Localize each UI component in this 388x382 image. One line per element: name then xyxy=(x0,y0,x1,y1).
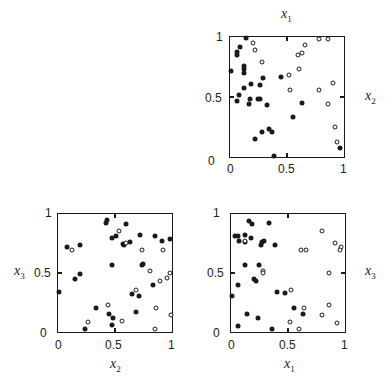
filled-circle-marker xyxy=(134,310,139,315)
y-tick-label-0.5: 0.5 xyxy=(207,267,224,279)
open-circle-marker xyxy=(260,59,265,64)
filled-circle-marker xyxy=(234,98,239,103)
x-tick-label-1: 1 xyxy=(168,339,175,351)
open-circle-marker xyxy=(153,326,158,331)
open-circle-marker xyxy=(169,312,174,317)
y-tick-label-1: 1 xyxy=(45,207,52,219)
open-circle-marker xyxy=(327,303,332,308)
filled-circle-marker xyxy=(252,137,257,142)
open-circle-marker xyxy=(289,288,294,293)
axis-label-x3-left: x3 xyxy=(14,263,25,281)
open-circle-marker xyxy=(147,268,152,273)
open-circle-marker xyxy=(261,271,266,276)
open-circle-marker xyxy=(330,80,335,85)
filled-circle-marker xyxy=(124,222,129,227)
x-tick-mark xyxy=(287,214,289,218)
x-tick-label-0.5: 0.5 xyxy=(105,339,122,351)
axis-label-x1-top: x1 xyxy=(281,6,292,24)
open-circle-marker xyxy=(335,320,340,325)
open-circle-marker xyxy=(317,87,322,92)
open-circle-marker xyxy=(124,240,129,245)
x-tick-mark xyxy=(287,328,289,332)
y-tick-mark xyxy=(230,96,234,98)
x-tick-label-1: 1 xyxy=(340,163,347,175)
filled-circle-marker xyxy=(253,279,258,284)
filled-circle-marker xyxy=(279,74,284,79)
filled-circle-marker xyxy=(234,52,239,57)
open-circle-marker xyxy=(106,303,111,308)
open-circle-marker xyxy=(335,139,340,144)
filled-circle-marker xyxy=(167,237,172,242)
filled-circle-marker xyxy=(249,82,254,87)
filled-circle-marker xyxy=(151,282,156,287)
axis-label-x1-bottom: x1 xyxy=(284,356,295,374)
filled-circle-marker xyxy=(237,45,242,50)
filled-circle-marker xyxy=(109,323,114,328)
filled-circle-marker xyxy=(104,221,109,226)
y-tick-label-0: 0 xyxy=(40,327,47,339)
open-circle-marker xyxy=(134,288,139,293)
x-tick-label-0: 0 xyxy=(227,163,234,175)
filled-circle-marker xyxy=(299,100,304,105)
open-circle-marker xyxy=(164,275,169,280)
x-tick-label-0: 0 xyxy=(228,339,235,351)
open-circle-marker xyxy=(288,87,293,92)
filled-circle-marker xyxy=(109,262,114,267)
filled-circle-marker xyxy=(259,243,264,248)
x-tick-label-0.5: 0.5 xyxy=(278,163,295,175)
filled-circle-marker xyxy=(290,115,295,120)
x-tick-label-0: 0 xyxy=(55,339,62,351)
filled-circle-marker xyxy=(270,326,275,331)
filled-circle-marker xyxy=(141,261,146,266)
open-circle-marker xyxy=(86,319,91,324)
filled-circle-marker xyxy=(258,83,263,88)
filled-circle-marker xyxy=(260,130,265,135)
open-circle-marker xyxy=(157,279,162,284)
x-tick-mark xyxy=(114,328,116,332)
open-circle-marker xyxy=(119,318,124,323)
filled-circle-marker xyxy=(57,289,62,294)
open-circle-marker xyxy=(297,326,302,331)
filled-circle-marker xyxy=(78,272,83,277)
filled-circle-marker xyxy=(137,232,142,237)
filled-circle-marker xyxy=(64,245,69,250)
open-circle-marker xyxy=(327,271,332,276)
open-circle-marker xyxy=(139,247,144,252)
open-circle-marker xyxy=(288,319,293,324)
filled-circle-marker xyxy=(136,294,141,299)
filled-circle-marker xyxy=(229,69,234,74)
filled-circle-marker xyxy=(243,36,248,41)
open-circle-marker xyxy=(297,66,302,71)
open-circle-marker xyxy=(251,40,256,45)
open-circle-marker xyxy=(299,51,304,56)
filled-circle-marker xyxy=(246,102,251,107)
filled-circle-marker xyxy=(266,221,271,226)
filled-circle-marker xyxy=(272,243,277,248)
y-tick-label-0: 0 xyxy=(213,327,220,339)
filled-circle-marker xyxy=(242,85,247,90)
open-circle-marker xyxy=(326,37,331,42)
open-circle-marker xyxy=(243,238,248,243)
open-circle-marker xyxy=(154,305,159,310)
y-tick-label-0: 0 xyxy=(208,155,215,167)
open-circle-marker xyxy=(337,247,342,252)
x-tick-mark xyxy=(286,153,288,157)
y-tick-label-0.5: 0.5 xyxy=(34,267,51,279)
open-circle-marker xyxy=(326,102,331,107)
x-tick-mark xyxy=(286,37,288,41)
filled-circle-marker xyxy=(242,71,247,76)
filled-circle-marker xyxy=(114,233,119,238)
y-tick-mark xyxy=(341,272,345,274)
axis-label-x2-right: x2 xyxy=(365,88,376,106)
filled-circle-marker xyxy=(249,236,254,241)
filled-circle-marker xyxy=(235,324,240,329)
open-circle-marker xyxy=(317,37,322,42)
filled-circle-marker xyxy=(160,238,165,243)
filled-circle-marker xyxy=(243,262,248,267)
filled-circle-marker xyxy=(250,222,255,227)
filled-circle-marker xyxy=(337,145,342,150)
y-tick-mark xyxy=(340,96,344,98)
filled-circle-marker xyxy=(110,316,115,321)
filled-circle-marker xyxy=(274,289,279,294)
filled-circle-marker xyxy=(291,305,296,310)
